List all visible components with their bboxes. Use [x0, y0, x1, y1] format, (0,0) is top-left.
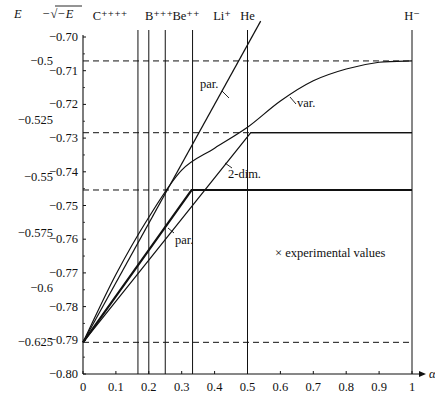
annotation-var: var.: [297, 96, 315, 110]
annotation-par-lower: par.: [175, 233, 193, 247]
y-tick-label-sqrt: −0.70: [49, 30, 78, 44]
y-axis-label-E: E: [13, 7, 22, 21]
axes-ticks: [83, 35, 426, 377]
x-tick-label: 0.5: [240, 380, 256, 394]
y-tick-label-sqrt: −0.74: [49, 165, 79, 179]
y-tick-label-sqrt: −0.73: [49, 131, 78, 145]
y-tick-label-sqrt: −0.80: [49, 367, 78, 381]
y-tick-label-E: −0.55: [24, 170, 53, 184]
y-tick-label-sqrt: −0.71: [49, 64, 78, 78]
y-tick-label-sqrt: −0.76: [49, 232, 78, 246]
energy-vs-alpha-chart: 00.10.20.30.40.50.60.70.80.91α−0.70−0.71…: [0, 0, 435, 402]
y-tick-label-sqrt: −0.72: [49, 97, 78, 111]
y-tick-label-sqrt: −0.78: [49, 300, 78, 314]
ion-label: Li⁺: [213, 9, 231, 23]
x-tick-label: 0.3: [174, 380, 190, 394]
y-axis-label-sqrt: −√−E: [42, 7, 74, 21]
annotation-experimental: × experimental values: [275, 246, 386, 260]
y-tick-label-E: −0.575: [18, 226, 53, 240]
y-tick-label-E: −0.525: [18, 113, 53, 127]
annotation-2-dim: 2-dim.: [228, 167, 261, 181]
x-tick-label: 0.6: [273, 380, 289, 394]
y-tick-label-sqrt: −0.77: [49, 266, 78, 280]
ion-label: B⁺⁺⁺: [145, 9, 173, 23]
y-tick-label-E: −0.625: [18, 335, 53, 349]
x-tick-label: 0.4: [207, 380, 223, 394]
annotation-par-upper: par.: [200, 77, 218, 91]
x-tick-label: 1: [409, 380, 415, 394]
chart-labels: 00.10.20.30.40.50.60.70.80.91α−0.70−0.71…: [13, 6, 435, 394]
x-tick-label: 0.2: [141, 380, 157, 394]
x-tick-label: 0.7: [305, 380, 321, 394]
leader: [290, 97, 296, 104]
ion-label: He: [240, 9, 255, 23]
x-axis-label: α: [429, 367, 435, 381]
ion-label: C⁺⁺⁺⁺: [93, 9, 128, 23]
y-tick-label-sqrt: −0.79: [49, 333, 78, 347]
ion-label: H⁻: [404, 9, 420, 23]
data-lines: [83, 21, 412, 374]
x-tick-label: 0: [80, 380, 86, 394]
leader: [222, 91, 229, 98]
x-tick-label: 0.8: [338, 380, 354, 394]
x-axis-arrow-icon: [419, 371, 426, 377]
y-tick-label-sqrt: −0.75: [49, 199, 78, 213]
ion-label: Be⁺⁺: [172, 9, 199, 23]
x-tick-label: 0.9: [371, 380, 387, 394]
x-tick-label: 0.1: [108, 380, 124, 394]
y-tick-label-E: −0.6: [30, 281, 53, 295]
y-tick-label-E: −0.5: [30, 54, 53, 68]
